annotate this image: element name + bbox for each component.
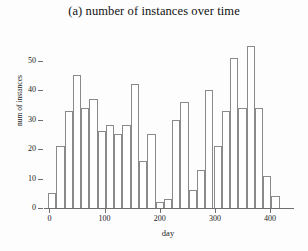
x-axis-tick-label: 200 xyxy=(140,214,180,223)
x-axis-tick xyxy=(270,209,271,213)
histogram-bar xyxy=(65,111,73,208)
x-axis-tick xyxy=(49,209,50,213)
histogram-bar xyxy=(271,196,279,208)
y-axis-tick xyxy=(38,149,43,150)
x-axis-line xyxy=(44,208,294,209)
plot-area xyxy=(45,40,291,208)
histogram-bar xyxy=(172,120,180,208)
histogram-bar xyxy=(205,90,213,208)
y-axis-title: num of instances xyxy=(15,46,24,156)
histogram-bar xyxy=(56,146,64,208)
y-axis-tick xyxy=(38,61,43,62)
histogram-bar xyxy=(73,75,81,208)
histogram-bar xyxy=(214,146,222,208)
histogram-bar xyxy=(197,170,205,208)
x-axis-tick-label: 0 xyxy=(29,214,69,223)
y-axis-tick-label: 10 xyxy=(0,174,36,183)
histogram-bar xyxy=(247,46,255,208)
y-axis-tick xyxy=(38,208,43,209)
histogram-bar xyxy=(122,125,130,208)
x-axis-tick-label: 400 xyxy=(250,214,290,223)
x-axis-tick-label: 100 xyxy=(85,214,125,223)
histogram-bar xyxy=(222,111,230,208)
histogram-bar xyxy=(106,125,114,208)
x-axis-tick-label: 300 xyxy=(195,214,235,223)
histogram-bar xyxy=(81,108,89,208)
histogram-bar xyxy=(89,99,97,208)
histogram-bar xyxy=(98,131,106,208)
histogram-bar xyxy=(147,134,155,208)
histogram-bar xyxy=(139,161,147,208)
histogram-bar xyxy=(48,193,56,208)
chart-figure: (a) number of instances over time 010203… xyxy=(0,0,308,251)
chart-title: (a) number of instances over time xyxy=(0,4,308,19)
histogram-bar xyxy=(255,108,263,208)
histogram-bar xyxy=(230,58,238,208)
histogram-bar xyxy=(180,102,188,208)
histogram-bar xyxy=(238,108,246,208)
y-axis-tick-label: 0 xyxy=(0,203,36,212)
x-axis-tick xyxy=(215,209,216,213)
histogram-bar xyxy=(131,84,139,208)
histogram-bar xyxy=(189,190,197,208)
x-axis-tick xyxy=(160,209,161,213)
histogram-bar xyxy=(164,199,172,208)
x-axis-title: day xyxy=(45,228,291,238)
y-axis-tick xyxy=(38,90,43,91)
x-axis-tick xyxy=(105,209,106,213)
histogram-bar xyxy=(114,134,122,208)
histogram-bar xyxy=(263,176,271,208)
y-axis-tick xyxy=(38,120,43,121)
y-axis-tick xyxy=(38,179,43,180)
